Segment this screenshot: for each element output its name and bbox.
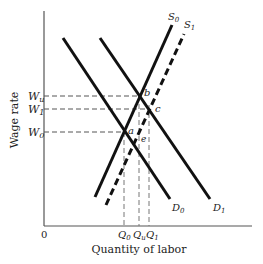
- point-label-a: a: [128, 125, 134, 136]
- wage-label-w0: W0: [28, 126, 44, 140]
- origin-label: 0: [41, 229, 47, 240]
- quantity-label-qu: Qu: [133, 229, 146, 242]
- point-label-e: e: [141, 134, 146, 144]
- x-axis-title: Quantity of labor: [91, 243, 187, 256]
- y-axis-title: Wage rate: [8, 92, 21, 149]
- curve-label-s1: S1: [184, 19, 195, 32]
- wage-label-w1: W1: [28, 103, 44, 117]
- quantity-label-q1: Q1: [146, 229, 159, 242]
- curve-label-s0: S0: [168, 11, 180, 24]
- labor-market-diagram: Wage rate Wu W1 W0 0 Q0 Qu Q1 Quantity o…: [0, 0, 263, 264]
- curve-label-d1: D1: [212, 202, 226, 215]
- point-label-b: b: [144, 87, 150, 98]
- point-label-c: c: [155, 103, 161, 114]
- wage-label-wu: Wu: [28, 90, 44, 104]
- curve-label-d0: D0: [171, 202, 185, 215]
- quantity-label-q0: Q0: [118, 229, 131, 242]
